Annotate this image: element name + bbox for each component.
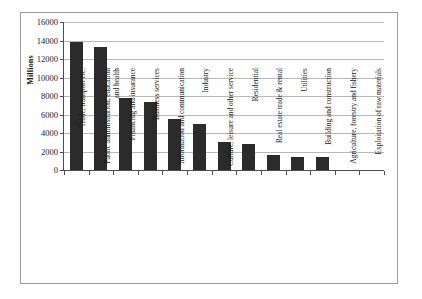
x-tick-label: Information and communication [178, 68, 190, 176]
x-tick-label: Trade, transport etc. [79, 68, 91, 176]
gridline [64, 22, 384, 23]
x-tick-label: Culture, leisure and other service [227, 68, 239, 176]
gridline [64, 59, 384, 60]
y-tick-mark [60, 96, 64, 97]
y-tick-label: 12000 [10, 55, 58, 64]
x-tick-label: Business services [153, 68, 165, 176]
x-tick-label: Industry [202, 68, 214, 176]
x-tick-mark [335, 171, 336, 175]
x-tick-label: Financing and insurance [129, 68, 141, 176]
y-tick-label: 2000 [10, 148, 58, 157]
x-tick-mark [162, 171, 163, 175]
x-tick-mark [310, 171, 311, 175]
y-tick-mark [60, 115, 64, 116]
gridline [64, 41, 384, 42]
x-tick-mark [384, 171, 385, 175]
y-tick-mark [60, 59, 64, 60]
x-tick-label-text: Building and construction [325, 68, 334, 176]
y-tick-label: 0 [10, 166, 58, 175]
x-tick-mark [261, 171, 262, 175]
x-tick-label-text: Business services [153, 68, 162, 176]
x-tick-label-text: Exploitation of raw materials [375, 68, 384, 176]
x-tick-label-text: Residential [252, 68, 261, 176]
x-tick-label: Building and construction [325, 68, 337, 176]
y-tick-label: 16000 [10, 18, 58, 27]
y-tick-mark [60, 41, 64, 42]
x-tick-label: Agriculture, forestry and fishery [350, 68, 362, 176]
y-tick-label: 6000 [10, 111, 58, 120]
x-tick-label-text: Industry [202, 68, 211, 176]
bar-chart-figure: Millions 0200040006000800010000120001400… [0, 0, 422, 299]
y-tick-label: 4000 [10, 129, 58, 138]
x-tick-mark [286, 171, 287, 175]
y-tick-mark [60, 152, 64, 153]
x-tick-mark [64, 171, 65, 175]
y-tick-mark [60, 133, 64, 134]
x-tick-mark [187, 171, 188, 175]
x-tick-label: Public administration, education and hea… [104, 68, 116, 176]
y-tick-label: 8000 [10, 92, 58, 101]
y-tick-mark [60, 22, 64, 23]
x-tick-label: Utilities [301, 68, 313, 176]
y-tick-label: 10000 [10, 74, 58, 83]
x-tick-label: Exploitation of raw materials [375, 68, 387, 176]
x-tick-label-text: Agriculture, forestry and fishery [350, 68, 359, 176]
x-tick-mark [212, 171, 213, 175]
x-tick-label-text: Utilities [301, 68, 310, 176]
x-tick-label-text: Financing and insurance [129, 68, 138, 176]
y-tick-mark [60, 78, 64, 79]
x-tick-label-text: Trade, transport etc. [79, 68, 88, 176]
x-tick-label-text: Real estate trade & rental [276, 68, 285, 176]
x-tick-label: Residential [252, 68, 264, 176]
x-tick-label: Real estate trade & rental [276, 68, 288, 176]
x-tick-mark [236, 171, 237, 175]
x-tick-label-text: Culture, leisure and other service [227, 68, 236, 176]
x-tick-label-text: Information and communication [178, 68, 187, 176]
y-tick-label: 14000 [10, 37, 58, 46]
x-tick-mark [138, 171, 139, 175]
x-tick-label-text: Public administration, education and hea… [104, 68, 121, 176]
x-tick-mark [89, 171, 90, 175]
x-tick-mark [359, 171, 360, 175]
x-tick-mark [113, 171, 114, 175]
